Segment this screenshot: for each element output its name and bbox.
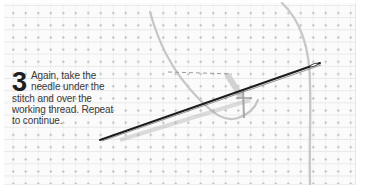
working-thread <box>282 3 310 184</box>
caption-line-4: working thread. Repeat <box>12 104 157 115</box>
caption-line-5: to continue. <box>12 115 157 126</box>
caption-line-2: needle under the <box>12 81 157 92</box>
caption-line-1: Again, take the <box>12 70 157 81</box>
step-number: 3 <box>12 71 27 93</box>
caption-line-3: stitch and over the <box>12 93 157 104</box>
step-caption: 3 Again, take the needle under the stitc… <box>12 70 157 127</box>
